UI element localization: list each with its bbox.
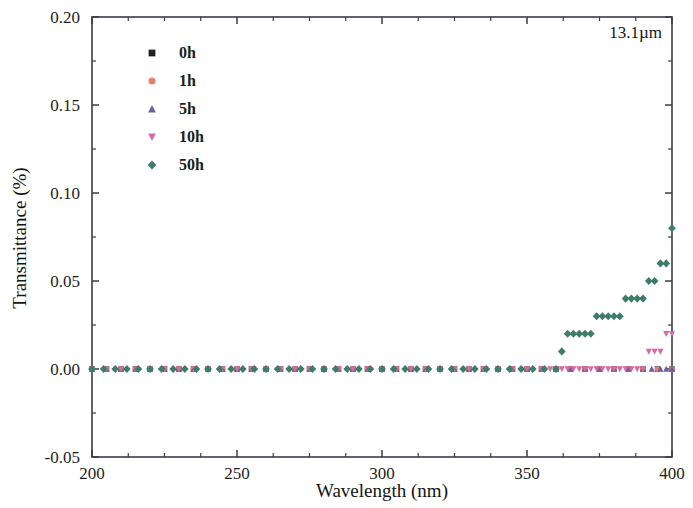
- y-tick-label--0.05: -0.05: [45, 448, 80, 467]
- y-tick-label-0.15: 0.15: [50, 96, 80, 115]
- chart-figure: 200250300350400 0.200.150.100.050.00-0.0…: [0, 0, 693, 508]
- x-axis-title: Wavelength (nm): [316, 480, 448, 502]
- legend-label-10h: 10h: [179, 128, 204, 145]
- x-tick-label-250: 250: [224, 464, 250, 483]
- legend-label-5h: 5h: [179, 100, 196, 117]
- plot-background: [0, 0, 693, 508]
- sample-thickness-annotation: 13.1µm: [609, 23, 662, 42]
- legend-marker-circle-icon: [148, 77, 155, 84]
- y-tick-label-0.05: 0.05: [50, 272, 80, 291]
- x-tick-label-400: 400: [659, 464, 685, 483]
- legend-label-0h: 0h: [179, 44, 196, 61]
- x-tick-label-200: 200: [79, 464, 105, 483]
- legend-label-1h: 1h: [179, 72, 196, 89]
- y-tick-label-0.00: 0.00: [50, 360, 80, 379]
- y-tick-label-0.20: 0.20: [50, 8, 80, 27]
- y-axis-title: Transmittance (%): [9, 167, 31, 308]
- legend-label-50h: 50h: [179, 156, 204, 173]
- transmittance-scatter-plot: 200250300350400 0.200.150.100.050.00-0.0…: [0, 0, 693, 508]
- y-tick-label-0.10: 0.10: [50, 184, 80, 203]
- legend-marker-square-icon: [149, 50, 156, 57]
- x-tick-label-350: 350: [514, 464, 540, 483]
